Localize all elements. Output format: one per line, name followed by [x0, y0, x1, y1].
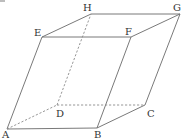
vertex-label-A: A [1, 129, 10, 138]
edge-AB [7, 128, 97, 129]
vertex-label-D: D [56, 108, 64, 119]
vertex-label-C: C [147, 108, 155, 119]
vertex-label-G: G [173, 2, 181, 13]
vertex-label-B: B [94, 129, 101, 138]
corner-mark [0, 0, 5, 2]
parallelepiped-diagram: A B C D E F G H [0, 0, 183, 138]
vertex-label-H: H [83, 2, 92, 13]
vertex-label-F: F [125, 26, 132, 37]
vertex-label-E: E [34, 27, 41, 38]
